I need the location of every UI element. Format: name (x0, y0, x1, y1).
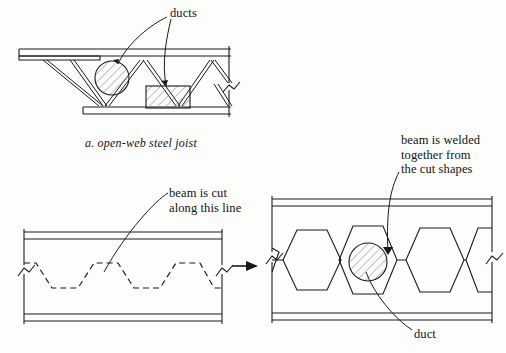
figure-root: ducts a. open-web steel joist beam is cu… (0, 0, 506, 353)
uncut-break-right (216, 265, 233, 276)
joist-duct-rectangle (146, 86, 190, 108)
leader-duct-rect (164, 19, 171, 86)
label-ducts: ducts (170, 6, 197, 21)
beam-castellated-diagram (266, 172, 503, 330)
joist-web-members (43, 60, 232, 106)
caption-open-web-steel-joist: a. open-web steel joist (85, 136, 197, 151)
uncut-break-left (18, 265, 35, 276)
hexagon-opening-partial (466, 228, 492, 292)
joist-break-symbol (223, 82, 240, 92)
cast-break-left (266, 253, 283, 264)
leader-duct-circle (118, 17, 167, 64)
cut-line-dashed (24, 263, 222, 288)
hexagon-opening (283, 230, 341, 290)
joist-top-chord (19, 49, 231, 60)
hexagon-opening (406, 228, 464, 292)
technical-diagram-svg (0, 0, 506, 353)
label-beam-is-welded: beam is welded together from the cut sha… (401, 133, 480, 177)
cast-duct-circle (349, 243, 387, 281)
label-beam-is-cut: beam is cut along this line (169, 186, 241, 215)
joist-duct-circle (95, 61, 129, 95)
cast-break-right (486, 253, 503, 264)
process-arrow (232, 261, 258, 271)
label-duct: duct (414, 327, 436, 342)
joist-diagram (19, 17, 240, 117)
